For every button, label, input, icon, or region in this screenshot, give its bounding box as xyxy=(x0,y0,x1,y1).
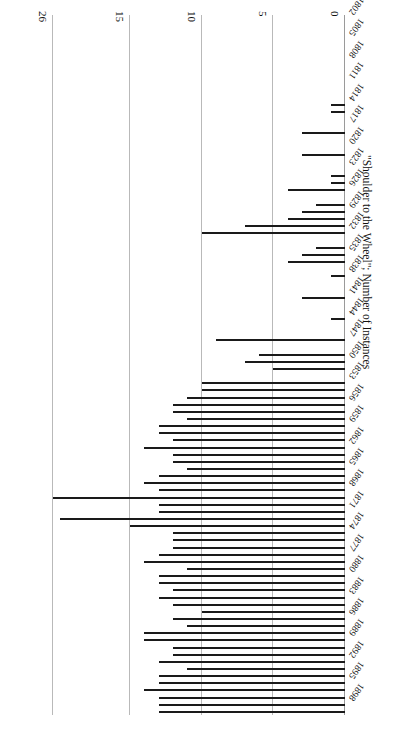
year-label-1859: 1859 xyxy=(347,403,366,424)
year-label-1853: 1853 xyxy=(347,360,366,381)
year-label-1883: 1883 xyxy=(347,574,366,595)
year-label-1892: 1892 xyxy=(347,638,366,659)
year-label-1820: 1820 xyxy=(347,124,366,145)
year-label-1886: 1886 xyxy=(347,596,366,617)
year-label-1811: 1811 xyxy=(347,60,366,81)
rotated-figure: "Shoulder to the Wheel"; Number of Insta… xyxy=(0,0,395,732)
year-label-1871: 1871 xyxy=(347,488,366,509)
bar-chart: "Shoulder to the Wheel"; Number of Insta… xyxy=(0,0,395,732)
category-tick-labels: 1802180518081811181418171820182318261829… xyxy=(53,15,345,715)
year-label-1874: 1874 xyxy=(347,510,366,531)
year-label-1880: 1880 xyxy=(347,553,366,574)
year-label-1889: 1889 xyxy=(347,617,366,638)
year-label-1865: 1865 xyxy=(347,446,366,467)
plot-area: 05101526 1802180518081811181418171820182… xyxy=(53,15,345,715)
year-label-1805: 1805 xyxy=(347,17,366,38)
year-label-1814: 1814 xyxy=(347,81,366,102)
year-label-1808: 1808 xyxy=(347,38,366,59)
value-tick-26: 26 xyxy=(37,11,49,22)
year-label-1856: 1856 xyxy=(347,381,366,402)
year-label-1898: 1898 xyxy=(347,681,366,702)
year-label-1862: 1862 xyxy=(347,424,366,445)
year-label-1877: 1877 xyxy=(347,531,366,552)
year-label-1895: 1895 xyxy=(347,660,366,681)
year-label-1802: 1802 xyxy=(347,0,366,17)
year-label-1868: 1868 xyxy=(347,467,366,488)
year-label-1817: 1817 xyxy=(347,103,366,124)
